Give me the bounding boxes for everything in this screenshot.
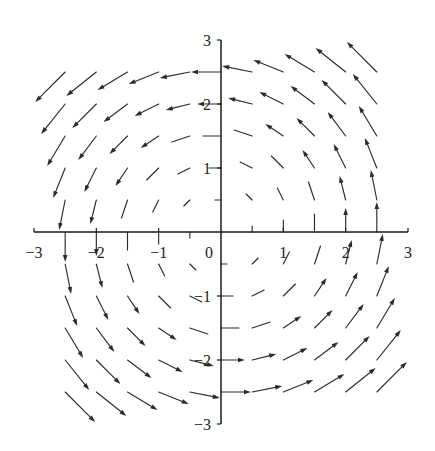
plot-background [0, 0, 435, 451]
x-tick-label: 1 [279, 244, 287, 261]
y-tick-label: −3 [194, 416, 211, 433]
x-tick-label: 2 [342, 244, 350, 261]
y-tick-label: 2 [203, 96, 211, 113]
x-tick-label: −3 [25, 244, 42, 261]
x-tick-label: −2 [88, 244, 105, 261]
y-tick-label: −1 [194, 288, 211, 305]
y-tick-label: −2 [194, 352, 211, 369]
x-tick-label: −1 [150, 244, 167, 261]
vector-field-plot: −3 −2 −1 0 1 2 3 3 2 1 −1 −2 −3 [0, 0, 435, 451]
x-tick-label: 3 [404, 244, 412, 261]
origin-label: 0 [205, 244, 213, 261]
y-tick-label: 3 [203, 32, 211, 49]
y-tick-label: 1 [203, 160, 211, 177]
